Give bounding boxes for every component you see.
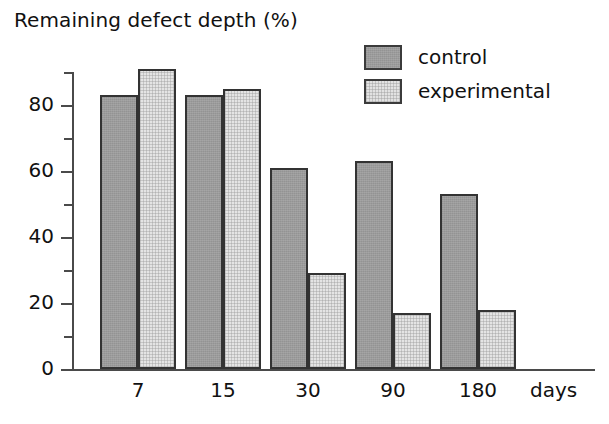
x-tick-label: 7 [98, 378, 178, 402]
bar-experimental-15 [223, 89, 261, 370]
y-tick-label: 80 [6, 94, 54, 114]
y-tick-minor [64, 270, 73, 272]
bar-experimental-7 [138, 69, 176, 369]
bar-control-90 [355, 161, 393, 369]
bar-control-30 [270, 168, 308, 369]
y-tick-label: 20 [6, 292, 54, 312]
bar-experimental-90 [393, 313, 431, 369]
y-tick-major [61, 369, 73, 371]
y-tick-major [61, 171, 73, 173]
bar-chart: Remaining defect depth (%) control exper… [0, 0, 609, 424]
x-axis-line [72, 369, 595, 371]
x-tick-label: 30 [268, 378, 348, 402]
bar-control-180 [440, 194, 478, 369]
bar-control-7 [100, 95, 138, 369]
y-tick-major [61, 303, 73, 305]
y-tick-minor [64, 204, 73, 206]
x-tick-label: 180 [438, 378, 518, 402]
y-tick-label: 40 [6, 226, 54, 246]
y-tick-label: 60 [6, 160, 54, 180]
y-tick-minor [64, 138, 73, 140]
y-tick-minor [64, 72, 73, 74]
y-tick-minor [64, 336, 73, 338]
y-tick-major [61, 237, 73, 239]
x-axis-title: days [530, 378, 577, 402]
y-tick-label: 0 [6, 358, 54, 378]
bar-control-15 [185, 95, 223, 369]
y-tick-major [61, 105, 73, 107]
x-tick-label: 90 [353, 378, 433, 402]
bar-experimental-30 [308, 273, 346, 369]
plot-area: 020406080 7153090180 days [0, 0, 609, 424]
x-tick-label: 15 [183, 378, 263, 402]
bar-experimental-180 [478, 310, 516, 369]
y-axis-line [72, 72, 74, 371]
